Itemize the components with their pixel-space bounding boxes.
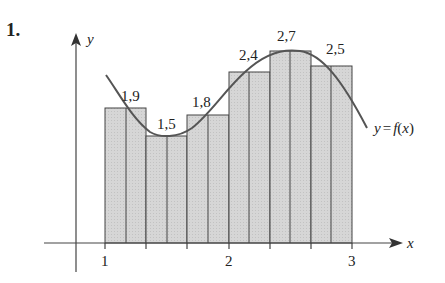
curve-label: y=f(x) bbox=[372, 120, 414, 137]
bar-label-3: 1,8 bbox=[192, 94, 211, 110]
problem-number: 1. bbox=[6, 19, 20, 40]
x-tick-3: 3 bbox=[348, 253, 356, 269]
rectangles bbox=[105, 51, 352, 243]
bar-label-4: 2,4 bbox=[239, 47, 258, 63]
riemann-sum-figure: 1. y x 1 2 3 1,9 1,5 1,8 2,4 2,7 2,5 y=f… bbox=[0, 0, 445, 283]
x-tick-1: 1 bbox=[101, 253, 109, 269]
x-tick-2: 2 bbox=[225, 253, 233, 269]
bar-label-2: 1,5 bbox=[157, 116, 176, 132]
bar-label-6: 2,5 bbox=[326, 41, 345, 57]
y-axis-label: y bbox=[85, 31, 94, 47]
bar-label-1: 1,9 bbox=[121, 88, 140, 104]
x-axis-label: x bbox=[406, 235, 414, 251]
bar-label-5: 2,7 bbox=[277, 28, 296, 44]
